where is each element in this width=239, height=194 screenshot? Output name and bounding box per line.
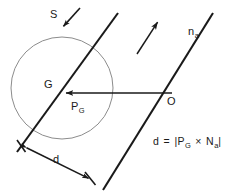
vector-na-arrow (137, 22, 158, 54)
position-vector-label-subscript: G (79, 106, 85, 115)
distance-formula: d = |PG × Na| (153, 136, 221, 147)
position-vector-label: PG (71, 101, 85, 112)
position-vector-label-base: P (71, 100, 79, 112)
normal-vector-label-subscript: a (195, 31, 199, 40)
distance-label: d (53, 154, 59, 165)
center-point-label: G (44, 79, 53, 90)
geometry-figure: S na G PG O d d = |PG × Na| (0, 0, 239, 194)
sphere-label-pointer (63, 8, 80, 26)
formula-term2-base: N (206, 135, 214, 147)
figure-canvas (0, 0, 239, 194)
formula-term1-base: P (177, 135, 184, 147)
origin-point-label: O (167, 96, 176, 107)
normal-vector-label-base: n (188, 25, 194, 37)
formula-term2-subscript: a (214, 141, 218, 150)
plane-line-left (17, 13, 118, 152)
sphere-label: S (50, 9, 58, 20)
formula-term1-subscript: G (185, 141, 191, 150)
distance-tick-right (85, 172, 96, 185)
normal-vector-label: na (188, 26, 199, 37)
sphere-circle (11, 37, 113, 139)
